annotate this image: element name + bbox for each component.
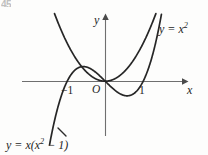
cubic-equation-lead: y = x(x (6, 138, 40, 152)
parabola-equation-label: y = x2 (159, 22, 188, 35)
y-axis-label: y (94, 14, 99, 26)
cubic-label-leader (58, 128, 66, 136)
parabola-equation-text: y = x (159, 22, 184, 36)
origin-label: O (92, 84, 100, 96)
cubic-equation-label: y = x(x2 − 1) (6, 138, 68, 151)
math-figure: 45 y x O (0, 0, 208, 155)
x-axis-label: x (187, 84, 192, 96)
x-tick-label-negative-one: −1 (61, 85, 73, 97)
x-tick-label-one: 1 (139, 85, 145, 97)
parabola-exponent: 2 (184, 21, 188, 30)
cubic-equation-tail: − 1) (44, 138, 68, 152)
